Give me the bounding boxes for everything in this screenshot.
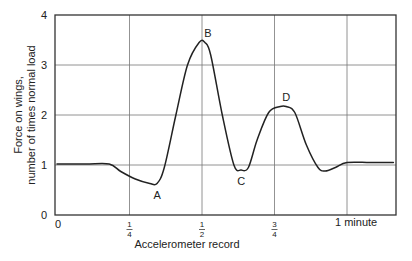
y-axis-label: Force on wings, number of times normal l…: [12, 45, 37, 184]
force-curve: [57, 40, 393, 185]
svg-text:4: 4: [127, 230, 132, 239]
x-tick-label: 0: [55, 218, 61, 230]
y-axis-label-line1: Force on wings,: [12, 76, 24, 154]
svg-text:4: 4: [272, 230, 277, 239]
x-tick-label: 1 minute: [335, 216, 377, 228]
svg-text:3: 3: [272, 220, 277, 229]
y-tick-label: 3: [41, 59, 47, 71]
annotation-d: D: [282, 91, 290, 103]
chart-canvas: 01234 01412341 minute ABCD Accelerometer…: [0, 0, 412, 261]
grid-lines: [55, 15, 396, 215]
y-axis-ticks: 01234: [41, 9, 47, 221]
x-tick-fraction: 14: [127, 220, 133, 239]
y-tick-label: 0: [41, 209, 47, 221]
annotation-b: B: [204, 27, 211, 39]
y-tick-label: 2: [41, 109, 47, 121]
y-tick-label: 4: [41, 9, 47, 21]
x-axis-ticks: 01412341 minute: [55, 216, 377, 239]
annotation-a: A: [153, 189, 161, 201]
svg-text:1: 1: [200, 220, 205, 229]
x-axis-label: Accelerometer record: [134, 238, 239, 250]
annotation-c: C: [237, 175, 245, 187]
x-tick-fraction: 34: [272, 220, 278, 239]
y-tick-label: 1: [41, 159, 47, 171]
accelerometer-chart: 01234 01412341 minute ABCD Accelerometer…: [0, 0, 412, 261]
x-tick-fraction: 12: [199, 220, 205, 239]
y-axis-label-line2: number of times normal load: [25, 45, 37, 184]
svg-text:1: 1: [127, 220, 132, 229]
